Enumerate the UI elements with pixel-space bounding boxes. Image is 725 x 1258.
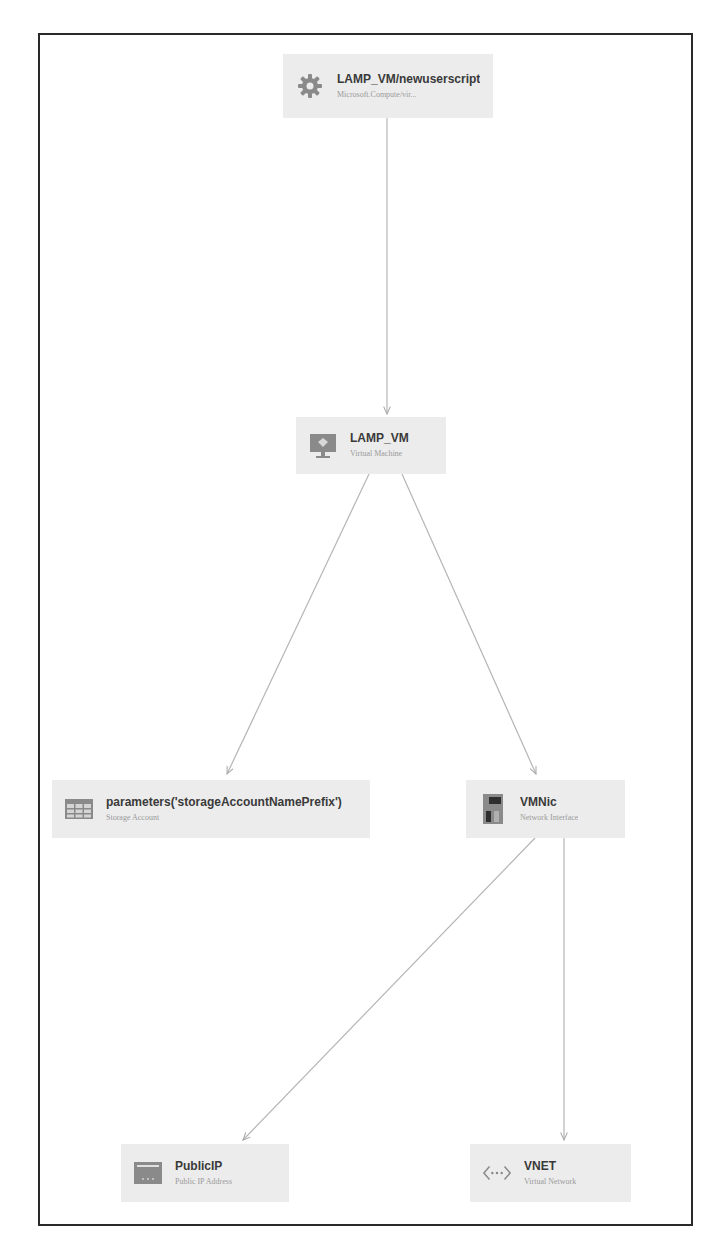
node-subtitle: Network Interface <box>520 812 578 824</box>
public-ip-icon <box>133 1158 163 1188</box>
node-title: VNET <box>524 1159 576 1174</box>
node-publicip[interactable]: PublicIP Public IP Address <box>121 1144 289 1202</box>
node-subtitle: Microsoft.Compute/vir... <box>337 89 480 101</box>
node-lamp-vm[interactable]: LAMP_VM Virtual Machine <box>296 417 446 474</box>
node-vmnic[interactable]: VMNic Network Interface <box>466 780 625 838</box>
node-title: PublicIP <box>175 1159 232 1174</box>
node-newuserscript[interactable]: LAMP_VM/newuserscript Microsoft.Compute/… <box>283 54 493 118</box>
diagram-frame <box>38 33 693 1226</box>
virtual-machine-icon <box>308 431 338 461</box>
network-interface-icon <box>478 794 508 824</box>
virtual-network-icon <box>482 1158 512 1188</box>
node-storage-account[interactable]: parameters('storageAccountNamePrefix') S… <box>52 780 370 838</box>
gear-icon <box>295 71 325 101</box>
node-subtitle: Virtual Network <box>524 1176 576 1188</box>
node-title: parameters('storageAccountNamePrefix') <box>106 795 342 810</box>
node-subtitle: Virtual Machine <box>350 448 409 460</box>
node-subtitle: Storage Account <box>106 812 342 824</box>
node-title: LAMP_VM/newuserscript <box>337 72 480 87</box>
node-vnet[interactable]: VNET Virtual Network <box>470 1144 631 1202</box>
storage-table-icon <box>64 794 94 824</box>
node-title: LAMP_VM <box>350 431 409 446</box>
node-title: VMNic <box>520 795 578 810</box>
node-subtitle: Public IP Address <box>175 1176 232 1188</box>
